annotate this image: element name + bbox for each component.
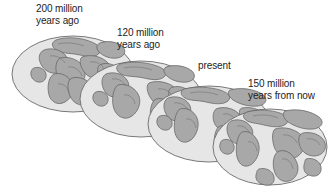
label-150-my-future-line-1: 150 million [248, 78, 315, 90]
label-120-mya: 120 million years ago [117, 27, 164, 50]
label-150-my-future: 150 million years from now [248, 78, 315, 101]
globe-150-my-future-graphic [211, 107, 333, 187]
label-200-mya-line-2: years ago [36, 15, 83, 27]
label-120-mya-line-1: 120 million [117, 27, 164, 39]
label-150-my-future-line-2: years from now [248, 90, 315, 102]
label-present: present [198, 60, 231, 72]
label-120-mya-line-2: years ago [117, 39, 164, 51]
label-200-mya: 200 million years ago [36, 3, 83, 26]
label-200-mya-line-1: 200 million [36, 3, 83, 15]
globe-150-my-future [211, 107, 333, 187]
label-present-line-1: present [198, 60, 231, 72]
continental-drift-figure: 200 million years ago 120 million years … [0, 0, 333, 195]
